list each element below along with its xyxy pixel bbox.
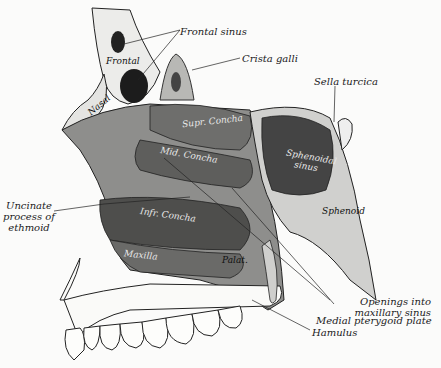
label-palat: Palat.	[222, 255, 248, 265]
alveolar-process	[60, 258, 80, 300]
label-uncinate-line1: Uncinate	[3, 200, 55, 211]
figure-canvas: Frontal sinus Crista galli Sella turcica…	[0, 0, 441, 368]
label-crista-galli: Crista galli	[242, 53, 298, 64]
label-frontal-sinus: Frontal sinus	[180, 26, 247, 37]
label-medial-pterygoid-plate: Medial pterygoid plate	[316, 315, 432, 326]
label-frontal: Frontal	[106, 56, 140, 66]
label-sphenoid: Sphenoid	[322, 206, 365, 216]
label-sella-turcica: Sella turcica	[314, 76, 378, 87]
label-uncinate-line2: process of	[3, 211, 55, 222]
frontal-sinus-upper	[111, 31, 125, 53]
label-uncinate-line3: ethmoid	[3, 222, 55, 233]
label-uncinate-process: Uncinate process of ethmoid	[3, 200, 55, 233]
frontal-sinus-lower	[120, 69, 148, 103]
label-hamulus: Hamulus	[312, 327, 357, 338]
label-openings-line1: Openings into	[330, 296, 431, 307]
